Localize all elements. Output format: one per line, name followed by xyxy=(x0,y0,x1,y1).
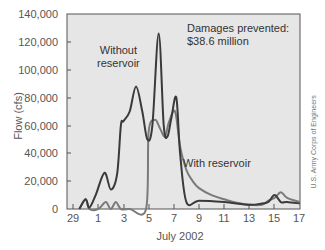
x-tick: 29 xyxy=(63,212,83,224)
damages-annotation: Damages prevented: $38.6 million xyxy=(187,22,289,48)
x-tick: 13 xyxy=(239,212,259,224)
series-label: reservoir xyxy=(97,57,140,70)
x-tick: 7 xyxy=(164,212,184,224)
x-tick: 15 xyxy=(264,212,284,224)
x-tick: 5 xyxy=(139,212,159,224)
source-credit: U.S. Army Corps of Engineers xyxy=(310,99,317,189)
annotation-line: Damages prevented: xyxy=(187,22,289,35)
x-tick: 9 xyxy=(189,212,209,224)
x-tick: 11 xyxy=(214,212,234,224)
x-tick: 1 xyxy=(88,212,108,224)
x-tick: 17 xyxy=(289,212,309,224)
with-reservoir-label: With reservoir xyxy=(183,157,251,170)
x-tick: 3 xyxy=(114,212,134,224)
x-axis-label: July 2002 xyxy=(140,230,220,242)
annotation-line: $38.6 million xyxy=(187,35,289,48)
without-reservoir-label: Without reservoir xyxy=(97,44,140,70)
series-label: Without xyxy=(97,44,140,57)
